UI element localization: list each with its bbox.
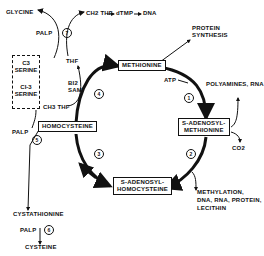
c3-serine-line2: SERINE [13, 67, 39, 74]
cysteine-label: CYSTEINE [25, 244, 57, 251]
sah-line2: HOMOCYSTEINE [117, 186, 168, 193]
dtmp-label: dTMP [116, 10, 133, 17]
c3-serine-line1: C3 [13, 60, 39, 67]
sam-line2: METHIONINE [182, 127, 226, 134]
ch3thf-label: CH3 THF [43, 104, 70, 111]
dna-label: DNA [143, 10, 157, 17]
ch2thf-label: CH2 THF [86, 10, 113, 17]
atp-label: ATP [164, 77, 176, 84]
sam-node: S-ADENOSYL- METHIONINE [178, 118, 230, 136]
polyamines-rna-label: POLYAMINES, RNA [206, 81, 264, 88]
sah-line1: S-ADENOSYL- [117, 179, 168, 186]
palp-top-label: PALP [36, 30, 52, 37]
step-2-badge: 2 [186, 149, 196, 159]
protein-synthesis-line1: PROTEIN [192, 25, 220, 32]
cystathionine-label: CYSTATHIONINE [13, 211, 64, 218]
step-3-badge: 3 [94, 149, 104, 159]
sah-node: S-ADENOSYL- HOMOCYSTEINE [113, 177, 172, 195]
b12-label: BI2 [68, 80, 78, 87]
thf-label: THF [66, 58, 78, 65]
sam-cofactor-label: SAM [68, 87, 82, 94]
sam-line1: S-ADENOSYL- [182, 120, 226, 127]
glycine-label: GLYCINE [6, 9, 34, 16]
protein-synthesis-line2: SYNTHESIS [192, 32, 228, 39]
c13-serine-line2: SERINE [13, 91, 39, 98]
step-4-badge: 4 [94, 89, 104, 99]
homocysteine-node: HOMOCYSTEINE [38, 121, 97, 132]
serine-box: C3 SERINE CI-3 SERINE [12, 55, 40, 109]
step-1-badge: 1 [184, 93, 194, 103]
palp-bottom-label: PALP [20, 227, 36, 234]
methylation-line2: DNA, RNA, PROTEIN, [197, 197, 262, 204]
methionine-node: METHIONINE [118, 60, 166, 71]
palp-left-label: PALP [12, 129, 28, 136]
co2-label: CO2 [232, 145, 245, 152]
step-6-badge: 6 [44, 225, 54, 235]
methylation-line1: METHYLATION, [197, 189, 244, 196]
c13-serine-line1: CI-3 [13, 84, 39, 91]
step-5-badge: 5 [32, 135, 42, 145]
step-7-badge: 7 [62, 28, 72, 38]
methylation-line3: LECITHIN [197, 205, 226, 212]
